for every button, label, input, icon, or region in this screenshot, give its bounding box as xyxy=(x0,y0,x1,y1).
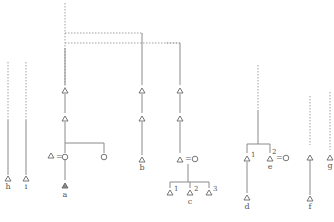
male-symbol-a-spouse xyxy=(48,153,54,158)
label-i: i xyxy=(25,183,28,191)
label-h: h xyxy=(5,183,10,191)
female-symbol-a-mother xyxy=(62,154,68,160)
female-symbol-a-sister xyxy=(101,154,107,160)
label-f: f xyxy=(309,203,312,211)
male-symbol-a-gen2 xyxy=(62,116,68,121)
marriage-sign-a: = xyxy=(56,153,63,161)
superscript-c3: 3 xyxy=(213,186,217,193)
label-c: c xyxy=(188,198,192,206)
superscript-c2: 2 xyxy=(194,186,198,193)
male-symbol-h xyxy=(5,176,11,181)
male-symbol-g xyxy=(327,155,333,160)
male-symbol-c3 xyxy=(206,190,212,195)
male-symbol-i xyxy=(23,176,29,181)
male-symbol-c2 xyxy=(187,190,193,195)
male-symbol-c-gen1 xyxy=(177,88,183,93)
male-symbol-c-gen2 xyxy=(177,116,183,121)
female-symbol-c-mother xyxy=(192,156,198,162)
superscript-c1: 1 xyxy=(174,186,178,193)
label-a: a xyxy=(63,191,68,199)
male-symbol-f xyxy=(307,196,313,201)
male-symbol-d xyxy=(244,195,250,200)
male-symbol-c-parent xyxy=(177,157,183,162)
male-symbol-d1 xyxy=(244,156,250,161)
label-b: b xyxy=(139,164,144,172)
marriage-sign-e: = xyxy=(276,154,283,162)
male-symbol-c1 xyxy=(167,190,173,195)
marriage-sign-c: = xyxy=(185,155,192,163)
label-e: e xyxy=(268,163,273,171)
superscript-e2: 2 xyxy=(272,149,276,156)
male-symbol-b-gen2 xyxy=(139,116,145,121)
male-symbol-b-gen1 xyxy=(139,88,145,93)
male-symbol-e xyxy=(267,156,273,161)
female-symbol-e-wife xyxy=(283,155,289,161)
male-symbol-a-gen1 xyxy=(62,88,68,93)
label-d: d xyxy=(244,203,249,211)
male-symbol-b xyxy=(139,157,145,162)
male-symbol-a xyxy=(62,183,68,188)
label-g: g xyxy=(327,162,332,170)
superscript-d1: 1 xyxy=(251,152,255,159)
male-symbol-f-parent xyxy=(307,155,313,160)
kinship-diagram xyxy=(0,0,334,222)
